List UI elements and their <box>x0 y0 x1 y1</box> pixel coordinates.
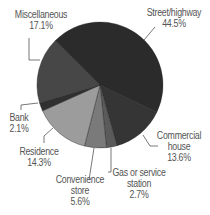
label-residence-value: 14.3% <box>17 157 61 168</box>
label-street-highway-value: 44.5% <box>145 18 203 29</box>
label-street-highway-name: Street/highway <box>145 7 203 18</box>
label-bank-name: Bank <box>6 112 32 123</box>
label-commercial-house-name: Commercial <box>153 130 204 141</box>
label-commercial-house-value: 13.6% <box>153 152 204 163</box>
label-gas-station: Gas or service station 2.7% <box>110 167 168 200</box>
label-bank-value: 2.1% <box>6 123 32 134</box>
label-gas-station-name2: station <box>110 178 168 189</box>
leader-misc <box>29 38 40 60</box>
label-convenience-store-value: 5.6% <box>54 196 107 207</box>
label-miscellaneous-name: Miscellaneous <box>12 9 70 20</box>
leader-residence <box>44 128 53 143</box>
label-gas-station-name: Gas or service <box>110 167 168 178</box>
label-residence: Residence 14.3% <box>17 146 61 168</box>
leader-bank <box>21 103 38 110</box>
label-commercial-house: Commercial house 13.6% <box>153 130 204 163</box>
label-convenience-store: Convenience store 5.6% <box>54 174 107 207</box>
label-miscellaneous-value: 17.1% <box>12 20 70 31</box>
label-miscellaneous: Miscellaneous 17.1% <box>12 9 70 31</box>
label-residence-name: Residence <box>17 146 61 157</box>
label-commercial-house-name2: house <box>153 141 204 152</box>
label-convenience-store-name: Convenience <box>54 174 107 185</box>
label-gas-station-value: 2.7% <box>110 189 168 200</box>
label-street-highway: Street/highway 44.5% <box>145 7 203 29</box>
pie-slices <box>37 22 163 148</box>
label-convenience-store-name2: store <box>54 185 107 196</box>
label-bank: Bank 2.1% <box>6 112 32 134</box>
